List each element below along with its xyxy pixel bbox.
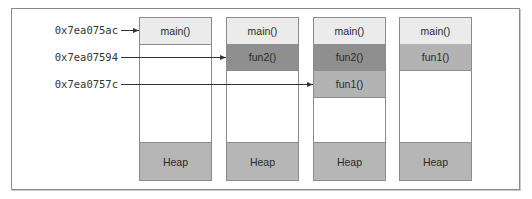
stack-frame-fun2: fun2() [227,44,298,71]
address-label-main: 0x7ea075ac [20,24,118,36]
address-label-fun2: 0x7ea07594 [20,51,118,63]
heap-block: Heap [140,142,211,180]
heap-block: Heap [314,142,385,180]
stack-frame-main: main() [140,18,211,45]
stack-frame-fun2: fun2() [314,44,385,71]
stack-frame-main: main() [314,18,385,45]
stack-2: main() fun2() Heap [226,17,299,181]
stack-1: main() Heap [139,17,212,181]
heap-block: Heap [400,142,471,180]
stack-frame-fun1: fun1() [400,44,471,71]
heap-block: Heap [227,142,298,180]
stack-3: main() fun2() fun1() Heap [313,17,386,181]
stack-frame-main: main() [227,18,298,45]
stack-frame-main: main() [400,18,471,45]
stack-frame-fun1: fun1() [314,71,385,98]
address-label-fun1: 0x7ea0757c [20,78,118,90]
stack-4: main() fun1() Heap [399,17,472,181]
